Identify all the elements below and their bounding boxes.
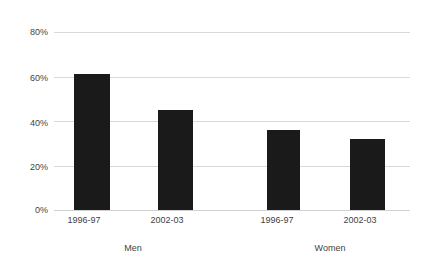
gridline-0-baseline [54, 210, 410, 211]
bar-men-1996-97 [74, 74, 110, 210]
plot-area [54, 32, 410, 210]
y-tick-label-0: 0% [8, 205, 48, 215]
group-label-women: Women [290, 243, 370, 254]
bar-women-2002-03 [350, 139, 385, 210]
y-tick-label-20: 20% [8, 162, 48, 172]
y-tick-label-40: 40% [8, 118, 48, 128]
bar-chart: 80% 60% 40% 20% 0% 1996-97 2002-03 1996-… [0, 0, 428, 276]
x-tick-label-men-1996-97: 1996-97 [44, 215, 124, 226]
y-tick-label-60: 60% [8, 73, 48, 83]
bar-women-1996-97 [267, 130, 300, 210]
group-label-men: Men [93, 243, 173, 254]
x-tick-label-women-1996-97: 1996-97 [237, 215, 317, 226]
x-tick-label-women-2002-03: 2002-03 [320, 215, 400, 226]
x-tick-label-men-2002-03: 2002-03 [127, 215, 207, 226]
gridline-80 [54, 32, 410, 33]
y-tick-label-80: 80% [8, 27, 48, 37]
bar-men-2002-03 [158, 110, 193, 210]
